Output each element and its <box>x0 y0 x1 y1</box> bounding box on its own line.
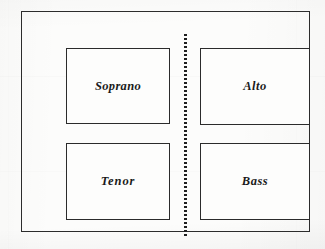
scan-streak <box>8 0 9 249</box>
part-label-tenor: Tenor <box>101 174 136 189</box>
part-label-bass: Bass <box>242 174 268 189</box>
part-label-soprano: Soprano <box>95 78 141 93</box>
vertical-dotted-divider-icon <box>184 34 187 238</box>
part-box-bass: Bass <box>200 143 310 220</box>
part-box-tenor: Tenor <box>66 143 170 220</box>
scanned-diagram-page: Soprano Alto Tenor Bass <box>0 0 325 249</box>
part-box-alto: Alto <box>200 48 310 125</box>
part-box-soprano: Soprano <box>66 48 170 124</box>
part-label-alto: Alto <box>243 79 267 94</box>
outer-frame: Soprano Alto Tenor Bass <box>21 11 310 232</box>
